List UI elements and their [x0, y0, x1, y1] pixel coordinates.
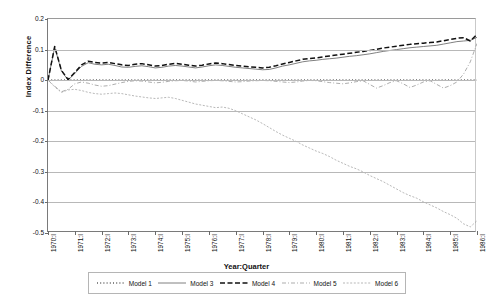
legend-label: Model 6 — [375, 280, 398, 287]
legend-item[interactable]: Model 1 — [96, 279, 152, 287]
x-tick-label: 1979:I — [291, 234, 298, 252]
gridline — [48, 141, 475, 142]
series-line-model-4 — [48, 34, 477, 80]
legend-label: Model 5 — [314, 280, 337, 287]
y-tick-label: -0.3 — [18, 167, 44, 174]
line-chart: Index Difference 0.20.10-0.1-0.2-0.3-0.4… — [0, 0, 493, 308]
series-lines-svg — [48, 19, 477, 233]
y-tick-label: -0.2 — [18, 137, 44, 144]
gridline — [48, 50, 475, 51]
y-axis-tick — [45, 172, 48, 173]
y-tick-label: -0.4 — [18, 198, 44, 205]
y-axis-tick — [45, 80, 48, 81]
y-tick-label: -0.1 — [18, 106, 44, 113]
x-tick-label: 1972:I — [104, 234, 111, 252]
x-tick-label: 1986:I — [479, 234, 486, 252]
y-axis-tick — [45, 202, 48, 203]
x-tick-label: 1974:I — [157, 234, 164, 252]
legend-item[interactable]: Model 3 — [157, 279, 213, 287]
x-tick-label: 1970:I — [50, 234, 57, 252]
legend-swatch-icon — [281, 279, 311, 287]
x-tick-label: 1983:I — [399, 234, 406, 252]
legend-label: Model 4 — [252, 280, 275, 287]
x-tick-label: 1981:I — [345, 234, 352, 252]
x-tick-label: 1980:I — [318, 234, 325, 252]
x-tick-label: 1985:I — [452, 234, 459, 252]
gridline — [48, 80, 475, 81]
legend-item[interactable]: Model 5 — [281, 279, 337, 287]
series-line-model-3 — [48, 37, 477, 80]
y-tick-label: 0.2 — [18, 15, 44, 22]
y-axis-tick — [45, 50, 48, 51]
x-tick-label: 1973:I — [130, 234, 137, 252]
legend-label: Model 3 — [190, 280, 213, 287]
x-tick-label: 1976:I — [211, 234, 218, 252]
y-tick-label: 0 — [18, 76, 44, 83]
gridline — [48, 202, 475, 203]
x-tick-label: 1975:I — [184, 234, 191, 252]
chart-legend: Model 1Model 3Model 4Model 5Model 6 — [88, 272, 406, 294]
gridline — [48, 111, 475, 112]
plot-area — [47, 18, 476, 232]
legend-swatch-icon — [96, 279, 126, 287]
y-axis-tick — [45, 141, 48, 142]
gridline — [48, 172, 475, 173]
x-axis-title: Year:Quarter — [0, 262, 493, 271]
series-line-model-6 — [48, 80, 477, 227]
y-axis-tick — [45, 111, 48, 112]
y-tick-label: 0.1 — [18, 45, 44, 52]
legend-swatch-icon — [342, 279, 372, 287]
y-axis-tick — [45, 19, 48, 20]
x-tick-label: 1982:I — [372, 234, 379, 252]
legend-item[interactable]: Model 6 — [342, 279, 398, 287]
legend-swatch-icon — [157, 279, 187, 287]
x-tick-label: 1984:I — [425, 234, 432, 252]
x-tick-label: 1971:I — [77, 234, 84, 252]
legend-label: Model 1 — [129, 280, 152, 287]
x-tick-label: 1977:I — [238, 234, 245, 252]
legend-swatch-icon — [219, 279, 249, 287]
x-tick-label: 1978:I — [265, 234, 272, 252]
legend-item[interactable]: Model 4 — [219, 279, 275, 287]
